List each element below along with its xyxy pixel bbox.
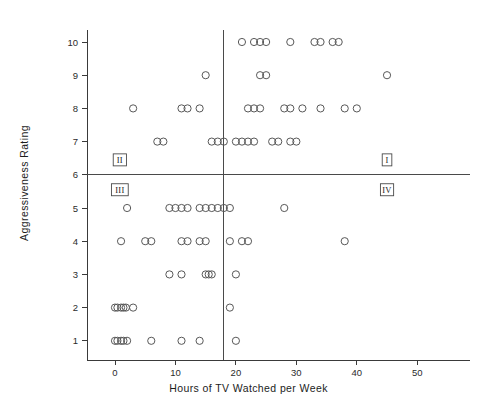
quadrant-label-iii: III [111,184,128,196]
data-point [341,105,348,112]
x-tick-label: 30 [291,367,302,378]
quadrant-label-text: I [385,155,388,165]
quadrant-label-i: I [382,154,392,166]
y-tick-label: 10 [67,37,78,48]
quadrant-label-iv: IV [380,184,393,196]
x-tick-label: 40 [352,367,363,378]
x-tick-label: 10 [170,367,181,378]
y-tick-label: 2 [73,302,78,313]
y-tick-label: 6 [73,169,78,180]
data-point [341,238,348,245]
y-tick-label: 5 [73,203,78,214]
data-point [226,238,233,245]
quadrant-label-text: IV [382,185,392,195]
quadrant-label-ii: II [113,154,126,166]
data-point [238,38,245,45]
x-tick-label: 50 [412,367,423,378]
data-point [130,304,137,311]
data-point [232,271,239,278]
data-point [166,271,173,278]
data-point [196,105,203,112]
data-point [226,304,233,311]
tick-labels: 1234567891001020304050 [67,37,422,379]
scatter-plot-figure: 1234567891001020304050 IIIIIIIV Hours of… [0,0,492,412]
x-axis-title: Hours of TV Watched per Week [169,382,328,394]
axis-ticks [82,42,417,365]
y-tick-label: 9 [73,70,78,81]
x-tick-label: 0 [112,367,117,378]
data-point [299,105,306,112]
reference-lines [87,30,470,360]
data-point [287,38,294,45]
data-point [178,337,185,344]
data-point [148,337,155,344]
x-tick-label: 20 [231,367,242,378]
data-point [232,337,239,344]
data-point [130,105,137,112]
plot-frame [87,30,470,360]
data-point [317,105,324,112]
data-point [281,204,288,211]
quadrant-label-text: III [115,185,124,195]
data-points [111,38,390,344]
quadrant-label-text: II [117,155,123,165]
scatter-plot-canvas: 1234567891001020304050 IIIIIIIV Hours of… [0,0,492,412]
data-point [353,105,360,112]
data-point [117,238,124,245]
y-tick-label: 7 [73,136,78,147]
y-tick-label: 4 [73,236,78,247]
data-point [196,337,203,344]
data-point [178,271,185,278]
y-axis-title: Aggressiveness Rating [18,125,30,241]
y-tick-label: 8 [73,103,78,114]
data-point [202,72,209,79]
data-point [123,204,130,211]
data-point [383,72,390,79]
y-tick-label: 3 [73,269,78,280]
y-tick-label: 1 [73,335,78,346]
